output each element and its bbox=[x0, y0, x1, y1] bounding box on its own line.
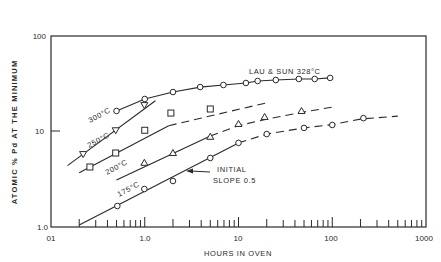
series-label-250: 250°C bbox=[86, 131, 111, 150]
square-marker bbox=[168, 110, 174, 116]
circle-marker bbox=[197, 84, 203, 90]
triangle-up-marker bbox=[141, 159, 148, 165]
circle-marker bbox=[361, 115, 367, 121]
series-label-200: 200°C bbox=[104, 158, 129, 177]
square-marker bbox=[113, 150, 119, 156]
x-axis-title: HOURS IN OVEN bbox=[204, 249, 272, 258]
series-lau bbox=[114, 75, 333, 114]
square-marker bbox=[142, 127, 148, 133]
circle-marker bbox=[243, 80, 249, 86]
circle-marker bbox=[329, 122, 335, 128]
chart: 100 10 1.0 01 1.0 10 100 1000 HOURS IN O… bbox=[0, 0, 441, 262]
circle-marker bbox=[255, 78, 261, 84]
circle-marker bbox=[142, 96, 148, 102]
square-marker bbox=[87, 164, 93, 170]
circle-marker bbox=[327, 75, 333, 81]
circle-marker bbox=[301, 125, 307, 131]
series-group bbox=[68, 75, 398, 225]
circle-marker bbox=[236, 140, 242, 146]
circle-marker bbox=[170, 89, 176, 95]
circle-marker bbox=[115, 203, 121, 209]
series-200-solid-line bbox=[117, 136, 211, 180]
triangle-up-marker bbox=[298, 107, 305, 113]
x-tick-label: 1000 bbox=[415, 234, 433, 243]
y-tick-label: 1.0 bbox=[37, 223, 49, 232]
triangle-down-marker bbox=[80, 152, 87, 158]
y-axis-title: ATOMIC % Pd AT THE MINIMUM bbox=[10, 60, 19, 205]
square-marker bbox=[207, 106, 213, 112]
triangle-up-marker bbox=[207, 133, 214, 139]
x-tick-label: 01 bbox=[47, 234, 56, 243]
x-tick-label: 1.0 bbox=[139, 234, 151, 243]
series-200-dashed-line bbox=[210, 107, 332, 136]
x-tick-label: 100 bbox=[324, 234, 338, 243]
series-label-300: 300°C bbox=[87, 106, 112, 125]
y-tick-label: 100 bbox=[33, 32, 47, 41]
y-tick-label: 10 bbox=[35, 127, 44, 136]
circle-marker bbox=[273, 77, 279, 83]
annotation-initial: INITIAL bbox=[217, 165, 247, 174]
circle-marker bbox=[296, 76, 302, 82]
circle-marker bbox=[264, 131, 270, 137]
annotation-slope: SLOPE 0.5 bbox=[213, 176, 256, 185]
circle-marker bbox=[114, 108, 120, 114]
x-tick-label: 10 bbox=[234, 234, 243, 243]
x-axis-ticks bbox=[79, 217, 421, 227]
series-label-lau: LAU & SUN 328°C bbox=[249, 67, 321, 76]
circle-marker bbox=[170, 178, 176, 184]
triangle-up-marker bbox=[261, 113, 268, 119]
circle-marker bbox=[221, 82, 227, 88]
triangle-down-marker bbox=[112, 128, 119, 134]
circle-marker bbox=[312, 76, 318, 82]
series-label-175: 175°C bbox=[116, 180, 141, 199]
circle-marker bbox=[207, 155, 213, 161]
circle-marker bbox=[142, 186, 148, 192]
triangle-up-marker bbox=[235, 120, 242, 126]
